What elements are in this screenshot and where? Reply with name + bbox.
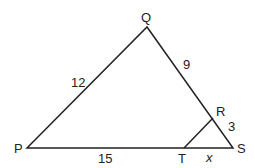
segment-label-qr: 9 [183,57,190,72]
vertex-label-s: S [237,141,246,156]
vertex-label-p: P [14,141,23,156]
segment-label-pt: 15 [98,151,112,166]
segment-label-rs: 3 [228,119,235,134]
segment-label-ts: x [205,150,213,165]
vertex-label-r: R [216,104,225,119]
segment-tr [184,118,213,148]
vertex-label-t: T [178,151,186,166]
vertex-label-q: Q [141,10,151,25]
triangle-diagram: Q P S R T 12 9 3 15 x [0,0,255,168]
segment-label-pq: 12 [71,75,85,90]
